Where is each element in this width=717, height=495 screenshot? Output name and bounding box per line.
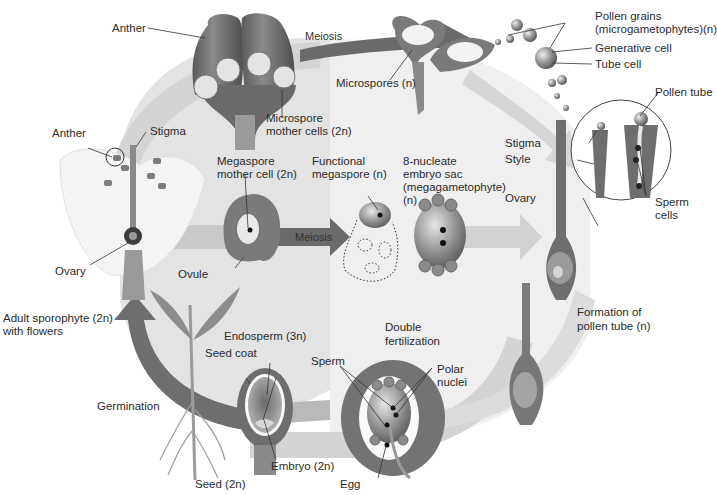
- label-stigma-left: Stigma: [150, 125, 186, 138]
- label-endosperm: Endosperm (3n): [224, 330, 306, 343]
- ovule-illustration: [224, 194, 281, 261]
- label-ovule: Ovule: [178, 268, 208, 281]
- double-fertilization-illustration: [341, 360, 445, 478]
- label-anther-top: Anther: [112, 22, 146, 35]
- seed-illustration: [237, 368, 293, 475]
- label-formation-pollen-tube-1: Formation of: [577, 306, 642, 319]
- label-adult-sporophyte-2: with flowers: [3, 325, 63, 338]
- label-embryo-sac-2: embryo sac: [403, 168, 462, 181]
- label-double-fertilization-2: fertilization: [385, 335, 440, 348]
- label-style-right: Style: [505, 153, 531, 166]
- label-tube-cell: Tube cell: [595, 58, 641, 71]
- label-sperm: Sperm: [311, 355, 345, 368]
- label-embryo-sac-1: 8-nucleate: [403, 155, 457, 168]
- label-egg: Egg: [340, 478, 360, 491]
- label-microspores: Microspores (n): [336, 77, 416, 90]
- label-adult-sporophyte-1: Adult sporophyte (2n): [3, 312, 113, 325]
- meiosis-middle-label: Meiosis: [295, 231, 332, 243]
- meiosis-top-label: Meiosis: [305, 30, 342, 42]
- label-pollen-grains-2: (microgametophytes)(n): [595, 23, 717, 36]
- label-seed-coat: Seed coat: [205, 347, 257, 360]
- label-functional-megaspore-1: Functional: [312, 155, 365, 168]
- label-sperm-cells-1: Sperm: [655, 196, 689, 209]
- label-anther-left: Anther: [52, 127, 86, 140]
- label-formation-pollen-tube-2: pollen tube (n): [577, 320, 651, 333]
- label-pollen-grains-1: Pollen grains: [595, 10, 661, 23]
- label-embryo-sac-3: (megagametophyte): [403, 181, 506, 194]
- label-pollen-tube: Pollen tube: [655, 86, 713, 99]
- label-microspore-mother-cells-2: mother cells (2n): [266, 125, 352, 138]
- label-embryo-sac-4: (n): [403, 194, 417, 207]
- label-polar-nuclei-1: Polar: [437, 363, 464, 376]
- label-microspore-mother-cells-1: Microspore: [266, 112, 323, 125]
- label-functional-megaspore-2: megaspore (n): [312, 168, 387, 181]
- label-stigma-right: Stigma: [505, 137, 541, 150]
- label-ovary-right: Ovary: [505, 192, 536, 205]
- label-generative-cell: Generative cell: [595, 42, 672, 55]
- label-ovary-left: Ovary: [55, 265, 86, 278]
- label-sperm-cells-2: cells: [655, 209, 678, 222]
- label-megaspore-mother-cell-2: mother cell (2n): [217, 168, 297, 181]
- pollen-tube-magnified: [571, 100, 671, 200]
- label-embryo: Embryo (2n): [271, 460, 334, 473]
- label-megaspore-mother-cell-1: Megaspore: [217, 155, 275, 168]
- label-double-fertilization-1: Double: [385, 321, 421, 334]
- label-polar-nuclei-2: nuclei: [437, 376, 467, 389]
- label-germination: Germination: [97, 400, 160, 413]
- label-seed: Seed (2n): [195, 478, 246, 491]
